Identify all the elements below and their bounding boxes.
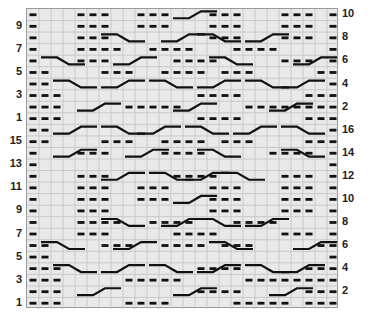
row-label-right: 4 (342, 78, 366, 89)
purl-symbol (150, 221, 157, 224)
purl-symbol (174, 279, 181, 282)
purl-symbol (198, 117, 205, 120)
row-label-left: 7 (2, 43, 22, 54)
purl-symbol (270, 302, 277, 305)
purl-symbol (78, 36, 85, 39)
purl-symbol (234, 48, 241, 51)
purl-symbol (246, 244, 253, 247)
purl-symbol (294, 175, 301, 178)
purl-symbol (234, 302, 241, 305)
purl-symbol (222, 94, 229, 97)
purl-symbol (282, 279, 289, 282)
purl-symbol (102, 186, 109, 189)
purl-symbol (186, 233, 193, 236)
purl-symbol (138, 198, 145, 201)
purl-symbol (210, 117, 217, 120)
purl-symbol (222, 290, 229, 293)
purl-symbol (90, 60, 97, 63)
purl-symbol (318, 302, 325, 305)
purl-symbol (270, 152, 277, 155)
row-label-left: 7 (2, 228, 22, 239)
purl-symbol (210, 210, 217, 213)
row-label-right: 10 (342, 8, 366, 19)
purl-symbol (30, 244, 37, 247)
purl-symbol (30, 25, 37, 28)
purl-symbol (54, 106, 61, 109)
purl-symbol (174, 106, 181, 109)
purl-symbol (318, 106, 325, 109)
purl-symbol (222, 210, 229, 213)
purl-symbol (162, 48, 169, 51)
purl-symbol (258, 302, 265, 305)
purl-symbol (306, 210, 313, 213)
purl-symbol (318, 94, 325, 97)
purl-symbol (306, 198, 313, 201)
purl-symbol (234, 221, 241, 224)
purl-symbol (330, 302, 337, 305)
purl-symbol (234, 198, 241, 201)
purl-symbol (282, 186, 289, 189)
purl-symbol (258, 48, 265, 51)
purl-symbol (270, 106, 277, 109)
purl-symbol (234, 210, 241, 213)
purl-symbol (30, 290, 37, 293)
purl-symbol (30, 267, 37, 270)
purl-symbol (186, 152, 193, 155)
purl-symbol (54, 290, 61, 293)
purl-symbol (246, 140, 253, 143)
purl-symbol (42, 279, 49, 282)
purl-symbol (222, 25, 229, 28)
row-label-right: 2 (342, 285, 366, 296)
purl-symbol (102, 244, 109, 247)
purl-symbol (90, 13, 97, 16)
purl-symbol (330, 233, 337, 236)
purl-symbol (102, 48, 109, 51)
purl-symbol (306, 279, 313, 282)
purl-symbol (186, 71, 193, 74)
purl-symbol (30, 60, 37, 63)
row-label-left: 15 (2, 135, 22, 146)
purl-symbol (330, 256, 337, 259)
purl-symbol (78, 25, 85, 28)
purl-symbol (186, 244, 193, 247)
purl-symbol (306, 13, 313, 16)
purl-symbol (138, 13, 145, 16)
purl-symbol (150, 25, 157, 28)
purl-symbol (330, 290, 337, 293)
purl-symbol (90, 175, 97, 178)
purl-symbol (78, 13, 85, 16)
purl-symbol (234, 13, 241, 16)
purl-symbol (210, 13, 217, 16)
purl-symbol (102, 152, 109, 155)
purl-symbol (174, 48, 181, 51)
purl-symbol (30, 48, 37, 51)
purl-symbol (294, 279, 301, 282)
purl-symbol (138, 106, 145, 109)
purl-symbol (162, 279, 169, 282)
purl-symbol (90, 48, 97, 51)
purl-symbol (222, 13, 229, 16)
purl-symbol (90, 233, 97, 236)
purl-symbol (330, 267, 337, 270)
purl-symbol (306, 25, 313, 28)
purl-symbol (150, 106, 157, 109)
purl-symbol (126, 140, 133, 143)
row-label-right: 2 (342, 101, 366, 112)
purl-symbol (306, 233, 313, 236)
purl-symbol (162, 25, 169, 28)
purl-symbol (258, 106, 265, 109)
purl-symbol (330, 210, 337, 213)
purl-symbol (174, 244, 181, 247)
row-label-right: 6 (342, 239, 366, 250)
row-label-left: 1 (2, 297, 22, 308)
purl-symbol (30, 106, 37, 109)
purl-symbol (234, 71, 241, 74)
purl-symbol (282, 198, 289, 201)
row-label-left: 9 (2, 204, 22, 215)
purl-symbol (150, 13, 157, 16)
purl-symbol (234, 36, 241, 39)
purl-symbol (282, 152, 289, 155)
purl-symbol (246, 279, 253, 282)
row-label-left: 1 (2, 112, 22, 123)
purl-symbol (246, 106, 253, 109)
